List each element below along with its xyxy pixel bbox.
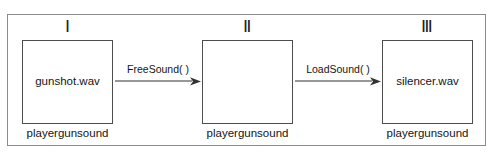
stage-3-caption: playergunsound xyxy=(373,126,482,140)
sound-state-diagram: Ⅰ gunshot.wav playergunsound FreeSound( … xyxy=(0,0,495,158)
transition-arrow-2-label: LoadSound( ) xyxy=(294,62,382,76)
stage-3-numeral: Ⅲ xyxy=(381,16,474,38)
arrow-right-icon xyxy=(114,76,202,90)
stage-2-caption: playergunsound xyxy=(193,126,302,140)
stage-3-box: silencer.wav xyxy=(382,40,473,124)
stage-2: Ⅱ playergunsound xyxy=(201,16,294,142)
stage-1-caption: playergunsound xyxy=(13,126,122,140)
transition-arrow-2: LoadSound( ) xyxy=(294,62,382,90)
stage-2-box xyxy=(202,40,293,124)
transition-arrow-1: FreeSound( ) xyxy=(114,62,202,90)
stage-3: Ⅲ silencer.wav playergunsound xyxy=(381,16,474,142)
stage-3-box-label: silencer.wav xyxy=(396,76,459,88)
stage-1: Ⅰ gunshot.wav playergunsound xyxy=(21,16,114,142)
transition-arrow-1-label: FreeSound( ) xyxy=(114,62,202,76)
stage-2-numeral: Ⅱ xyxy=(201,16,294,38)
stage-1-numeral: Ⅰ xyxy=(21,16,114,38)
arrow-right-icon xyxy=(294,76,382,90)
stage-1-box: gunshot.wav xyxy=(22,40,113,124)
stage-1-box-label: gunshot.wav xyxy=(35,76,100,88)
